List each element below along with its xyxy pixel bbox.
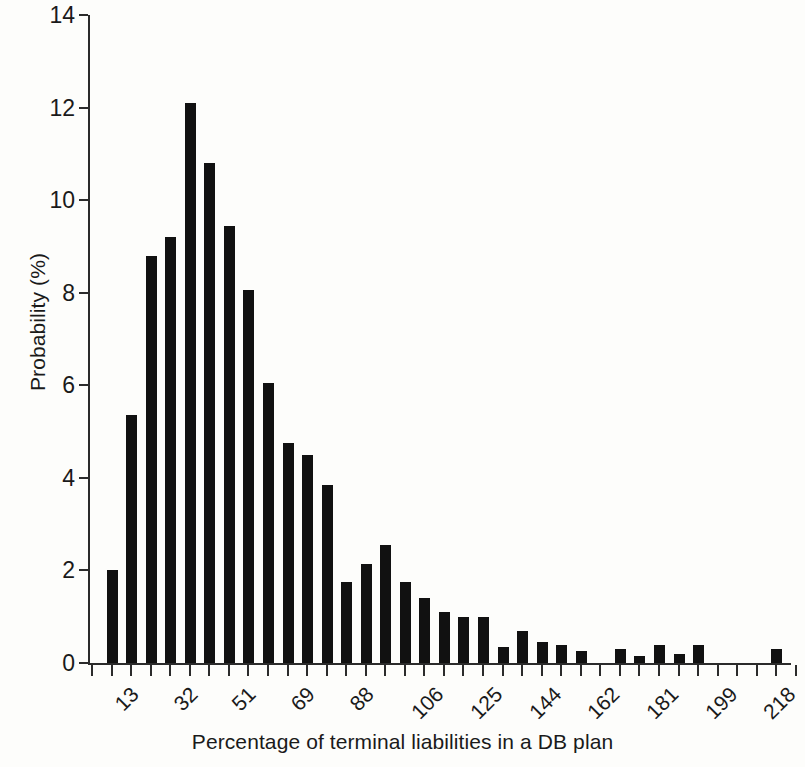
x-axis-tick-label: 106 (408, 683, 448, 723)
bar (498, 647, 509, 663)
chart-figure: Probability (%) 02468101214 133251698810… (0, 0, 805, 767)
x-axis-tick (228, 665, 230, 676)
y-axis-tick-label: 2 (62, 559, 75, 582)
y-axis-tick-label: 4 (62, 466, 75, 489)
x-axis-tick-label: 69 (287, 683, 318, 714)
bar (165, 237, 176, 663)
x-axis-tick (717, 665, 719, 676)
bar (322, 485, 333, 663)
x-axis-tick-label: 181 (642, 683, 682, 723)
x-axis-tick (795, 665, 797, 676)
bar (341, 582, 352, 663)
x-axis-tick (365, 665, 367, 676)
x-axis-tick-label: 51 (228, 683, 259, 714)
x-axis-tick (247, 665, 249, 676)
bar (224, 226, 235, 663)
y-axis-tick (79, 477, 88, 479)
x-axis-tick (756, 665, 758, 676)
x-axis-tick (443, 665, 445, 676)
x-axis-tick (462, 665, 464, 676)
x-axis-tick (404, 665, 406, 676)
bar (439, 612, 450, 663)
y-axis-tick-label: 0 (62, 652, 75, 675)
x-axis-tick (208, 665, 210, 676)
bar-series (88, 15, 790, 663)
x-axis-tick (521, 665, 523, 676)
y-axis-tick (79, 384, 88, 386)
x-axis-tick (169, 665, 171, 676)
bar (302, 455, 313, 663)
x-axis-tick (345, 665, 347, 676)
y-axis-tick-label: 6 (62, 374, 75, 397)
x-axis-tick (580, 665, 582, 676)
bar (458, 617, 469, 663)
x-axis-tick-label: 199 (701, 683, 741, 723)
x-axis-label: Percentage of terminal liabilities in a … (0, 730, 805, 754)
y-axis-tick (79, 107, 88, 109)
x-axis-tick (775, 665, 777, 676)
x-axis-tick (736, 665, 738, 676)
bar (263, 383, 274, 663)
y-axis-tick (79, 569, 88, 571)
bar (126, 415, 137, 663)
y-axis-tick-label: 12 (49, 96, 75, 119)
bar (107, 570, 118, 663)
x-axis-tick-label: 162 (583, 683, 623, 723)
plot-area: 02468101214 1332516988106125144162181199… (88, 15, 790, 663)
x-axis-tick (638, 665, 640, 676)
x-axis-tick (326, 665, 328, 676)
bar (576, 651, 587, 663)
x-axis-tick (91, 665, 93, 676)
x-axis-tick (189, 665, 191, 676)
x-axis-tick (678, 665, 680, 676)
x-axis-tick-label: 88 (345, 683, 376, 714)
bar (146, 256, 157, 663)
bar (517, 631, 528, 663)
bar (361, 564, 372, 664)
y-axis-tick (79, 662, 88, 664)
bar (380, 545, 391, 663)
x-axis-tick (150, 665, 152, 676)
x-axis-tick (619, 665, 621, 676)
bar (693, 645, 704, 664)
x-axis-tick-label: 144 (525, 683, 565, 723)
x-axis-tick (482, 665, 484, 676)
bar (478, 617, 489, 663)
y-axis-tick-label: 8 (62, 281, 75, 304)
x-axis-tick-label: 218 (759, 683, 799, 723)
x-axis-tick (541, 665, 543, 676)
x-axis-tick (306, 665, 308, 676)
bar (400, 582, 411, 663)
x-axis-line (88, 663, 791, 665)
x-axis-tick (111, 665, 113, 676)
x-axis-tick (287, 665, 289, 676)
y-axis-tick (79, 292, 88, 294)
x-axis-tick (267, 665, 269, 676)
bar (243, 290, 254, 663)
x-axis-tick-label: 125 (466, 683, 506, 723)
bar (185, 103, 196, 663)
x-axis-tick (697, 665, 699, 676)
bar (204, 163, 215, 663)
x-axis-tick-label: 13 (111, 683, 142, 714)
x-axis-tick (423, 665, 425, 676)
x-axis-tick (560, 665, 562, 676)
bar (771, 649, 782, 663)
x-axis-tick (384, 665, 386, 676)
bar (419, 598, 430, 663)
x-axis-tick-label: 32 (169, 683, 200, 714)
y-axis-tick (79, 199, 88, 201)
bar (283, 443, 294, 663)
y-axis-tick-label: 10 (49, 189, 75, 212)
bar (537, 642, 548, 663)
bar (556, 645, 567, 664)
bar (654, 645, 665, 664)
x-axis-tick (130, 665, 132, 676)
bar (674, 654, 685, 663)
x-axis-tick (502, 665, 504, 676)
bar (634, 656, 645, 663)
y-axis-tick (79, 14, 88, 16)
y-axis-tick-label: 14 (49, 4, 75, 27)
y-axis-label: Probability (%) (26, 192, 50, 452)
x-axis-tick (599, 665, 601, 676)
